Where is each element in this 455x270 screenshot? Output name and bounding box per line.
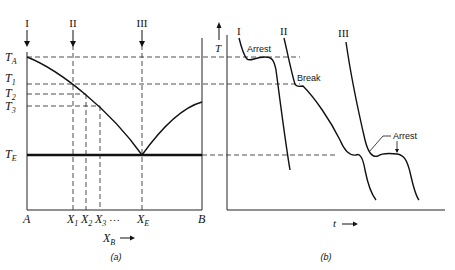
label-t1: T1 — [5, 71, 16, 87]
cooling-curve-iii — [346, 42, 419, 200]
annotation-arrest-i: Arrest — [247, 44, 272, 54]
label-b: B — [198, 212, 206, 226]
phase-diagram-figure: I II III TA T1 T2 T3 TE A B X1 X2 X3 … X… — [0, 0, 455, 270]
label-x1: X1 — [66, 212, 78, 228]
time-axis-label: t — [333, 217, 337, 229]
caption-a: (a) — [111, 252, 122, 262]
arrow-label-ii: II — [69, 17, 77, 29]
curve-label-iii: III — [338, 27, 349, 39]
arrest-arrow-icon — [395, 149, 399, 153]
t-axis-label: T — [215, 42, 222, 54]
label-x2: X2 — [80, 212, 92, 228]
label-te: TE — [5, 147, 17, 163]
time-axis-arrow-icon — [342, 222, 358, 227]
panel-b: T I Arrest II Break III Arrest t (b) — [215, 22, 445, 262]
label-a: A — [22, 212, 31, 226]
annotation-break: Break — [297, 73, 321, 83]
caption-b: (b) — [321, 252, 332, 262]
annotation-arrest-iii: Arrest — [393, 131, 418, 141]
x-axis-arrow-icon — [120, 236, 135, 241]
label-ellipsis: … — [109, 211, 120, 223]
arrow-label-i: I — [25, 17, 29, 29]
arrow-label-iii: III — [137, 17, 148, 29]
cooling-curve-i — [239, 38, 290, 170]
curve-label-i: I — [237, 25, 241, 37]
arrow-ii — [70, 30, 76, 47]
arrow-i — [24, 30, 30, 47]
t-axis-arrow-icon — [217, 22, 222, 40]
label-ta: TA — [5, 50, 17, 66]
label-xe: XE — [136, 212, 149, 228]
liquidus-right — [142, 102, 202, 155]
curve-label-ii: II — [280, 25, 288, 37]
x-axis-label: XB — [102, 231, 115, 247]
arrow-iii — [139, 30, 145, 47]
cooling-curve-ii — [284, 38, 376, 200]
label-x3: X3 — [94, 212, 106, 228]
arrest-leader-left — [369, 136, 391, 152]
